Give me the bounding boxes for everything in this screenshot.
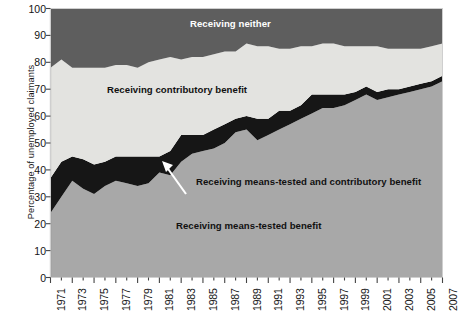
x-tick-label: 1979	[142, 288, 154, 311]
x-tick-label: 1987	[229, 288, 241, 311]
annotation-receiving-neither: Receiving neither	[190, 18, 271, 29]
x-tick-label: 2005	[425, 288, 437, 311]
x-tick-label: 1977	[120, 288, 132, 311]
x-tick-label: 1973	[76, 288, 88, 311]
x-tick-label: 1989	[251, 288, 263, 311]
x-tick-label: 2001	[381, 288, 393, 311]
x-tick-label: 1971	[55, 288, 67, 311]
x-tick-label: 1997	[338, 288, 350, 311]
x-tick-label: 1995	[316, 288, 328, 311]
x-tick-label: 1991	[272, 288, 284, 311]
annotation-receiving-means-tested: Receiving means-tested benefit	[176, 220, 321, 231]
x-tick-label: 1983	[185, 288, 197, 311]
x-tick-label: 1999	[359, 288, 371, 311]
x-tick-label: 1985	[207, 288, 219, 311]
x-tick-label: 1975	[98, 288, 110, 311]
cropped-footer-text	[0, 316, 454, 323]
x-tick-label: 2007	[447, 288, 459, 311]
annotation-receiving-contributory: Receiving contributory benefit	[107, 84, 247, 95]
annotation-receiving-means-tested-and-contributory: Receiving means-tested and contributory …	[196, 176, 421, 187]
x-tick-label: 1981	[163, 288, 175, 311]
x-tick-label: 1993	[294, 288, 306, 311]
x-tick-label: 2003	[403, 288, 415, 311]
